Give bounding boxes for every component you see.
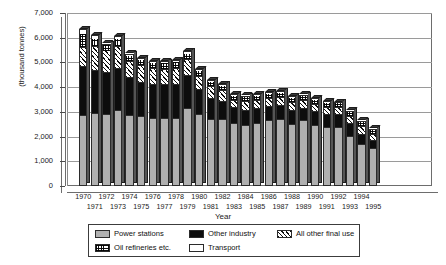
- y-axis-tick-label: 1,000: [34, 156, 53, 165]
- x-axis-label-1977: 1977: [156, 202, 172, 211]
- x-axis-label-1995: 1995: [365, 202, 381, 211]
- bar-segment: [324, 108, 330, 115]
- y-axis-tick: [60, 137, 65, 138]
- bar-segment: [254, 101, 260, 109]
- bar-series-layer: [67, 13, 432, 186]
- y-axis-tick-label: 5,000: [34, 57, 53, 66]
- x-axis-label-1986: 1986: [261, 192, 277, 201]
- bar-segment: [358, 127, 364, 134]
- bar-segment: [196, 90, 202, 115]
- bar-segment: [208, 99, 214, 120]
- x-axis-label-1983: 1983: [226, 202, 242, 211]
- bar-segment: [289, 111, 295, 126]
- bar-segment: [208, 87, 214, 99]
- y-axis-tick: [60, 38, 65, 39]
- bar-segment: [254, 124, 260, 186]
- bar-segment: [347, 117, 353, 124]
- bar-segment: [254, 109, 260, 124]
- legend-swatch-icon: [95, 230, 110, 238]
- bar-segment: [92, 47, 98, 70]
- legend-swatch-icon: [95, 244, 110, 252]
- bar-segment: [347, 137, 353, 186]
- bar-segment: [358, 135, 364, 145]
- y-axis-tick: [60, 87, 65, 88]
- legend-swatch-icon: [277, 230, 292, 238]
- bar-segment: [126, 62, 132, 78]
- bar-segment: [115, 39, 121, 46]
- bar-segment: [300, 101, 306, 108]
- y-axis-tick-label: 7,000: [34, 8, 53, 17]
- bar-segment: [161, 119, 167, 186]
- bar-segment: [138, 83, 144, 117]
- bar-segment: [150, 85, 156, 119]
- bar-segment: [92, 71, 98, 115]
- bar-segment: [208, 120, 214, 186]
- legend-label: All other final use: [296, 229, 354, 238]
- x-axis-label-1993: 1993: [342, 202, 358, 211]
- bar-segment: [242, 102, 248, 110]
- bar-segment: [196, 115, 202, 186]
- x-axis-label-1994: 1994: [354, 192, 370, 201]
- x-axis-label-1975: 1975: [133, 202, 149, 211]
- bar-segment: [324, 115, 330, 128]
- bar-segment: [103, 115, 109, 186]
- x-axis-label-1989: 1989: [296, 202, 312, 211]
- x-axis-label-1984: 1984: [238, 192, 254, 201]
- bar-segment: [161, 70, 167, 86]
- bar-segment: [115, 69, 121, 111]
- x-axis-label-1987: 1987: [272, 202, 288, 211]
- y-axis-tick-label: 6,000: [34, 33, 53, 42]
- bar-segment: [219, 102, 225, 120]
- bar-segment: [161, 85, 167, 119]
- bar-segment: [335, 108, 341, 115]
- bar-segment: [289, 103, 295, 110]
- bar-segment: [103, 73, 109, 115]
- x-axis-label-1990: 1990: [307, 192, 323, 201]
- x-axis-label-1971: 1971: [87, 202, 103, 211]
- x-axis-label-1974: 1974: [122, 192, 138, 201]
- y-axis-tick-label: 2,000: [34, 132, 53, 141]
- y-axis-tick-label: 0: [49, 181, 53, 190]
- bar-segment: [173, 62, 179, 69]
- x-axis-label-1988: 1988: [284, 192, 300, 201]
- bar-segment: [126, 116, 132, 186]
- bar-segment: [242, 126, 248, 186]
- bar-segment: [324, 128, 330, 186]
- x-axis-label-1991: 1991: [319, 202, 335, 211]
- y-axis-tick: [60, 13, 65, 14]
- y-axis-tick-label: 4,000: [34, 82, 53, 91]
- bar-segment: [277, 106, 283, 120]
- bar-segment: [196, 77, 202, 90]
- x-axis-label-1981: 1981: [203, 202, 219, 211]
- bar-segment: [150, 119, 156, 186]
- bar-segment: [289, 125, 295, 186]
- bar-segment: [300, 109, 306, 122]
- legend-swatch-icon: [189, 230, 204, 238]
- y-axis-tick: [60, 186, 65, 187]
- legend-item-transport: Transport: [189, 243, 240, 252]
- bar-segment: [266, 99, 272, 107]
- bar-segment: [347, 124, 353, 137]
- bar-segment: [80, 67, 86, 116]
- bar-segment: [231, 101, 237, 109]
- bar-segment: [335, 115, 341, 128]
- bar-segment: [92, 39, 98, 47]
- x-axis-label-1979: 1979: [180, 202, 196, 211]
- bar-segment: [370, 141, 376, 149]
- bar-segment: [80, 34, 86, 48]
- bar-segment: [219, 120, 225, 186]
- legend-label: Oil refineries etc.: [114, 243, 171, 252]
- x-axis-label-1978: 1978: [168, 192, 184, 201]
- plot-area: 01,0002,0003,0004,0005,0006,0007,000: [61, 13, 432, 186]
- bar-side-3d: [377, 126, 380, 183]
- x-axis-label-1970: 1970: [75, 192, 91, 201]
- bar-segment: [138, 66, 144, 83]
- x-axis-label-1982: 1982: [214, 192, 230, 201]
- y-axis-tick: [60, 112, 65, 113]
- bar-segment: [231, 108, 237, 124]
- legend-item-all-other-final-use: All other final use: [277, 229, 354, 238]
- bar-segment: [184, 60, 190, 76]
- bar-segment: [115, 111, 121, 186]
- bar-segment: [277, 98, 283, 106]
- bar-segment: [103, 51, 109, 73]
